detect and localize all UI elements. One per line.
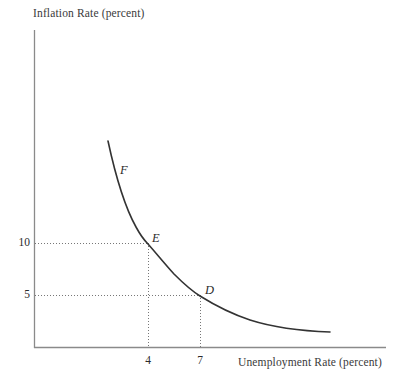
x-tick-label-4: 4	[138, 354, 158, 366]
chart-canvas	[0, 0, 393, 386]
x-tick-label-7: 7	[190, 354, 210, 366]
y-tick-label-10: 10	[6, 236, 30, 248]
curve-point-label-d: D	[205, 283, 214, 298]
curve-point-label-e: E	[152, 231, 160, 246]
curve-point-label-f: F	[120, 163, 128, 178]
phillips-curve-figure: Inflation Rate (percent) Unemployment Ra…	[0, 0, 393, 386]
x-axis-title: Unemployment Rate (percent)	[238, 356, 382, 368]
y-tick-label-5: 5	[6, 288, 30, 300]
y-axis-title: Inflation Rate (percent)	[33, 7, 145, 19]
phillips-curve-path	[108, 141, 330, 332]
